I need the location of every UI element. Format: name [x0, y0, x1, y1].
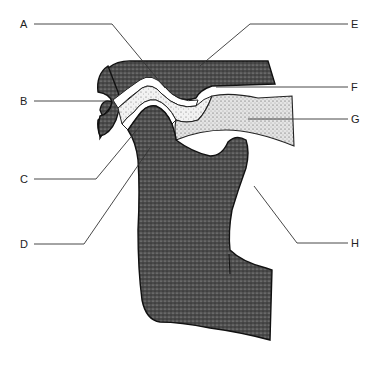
label-h: H — [351, 237, 359, 249]
leader-d — [34, 148, 150, 244]
label-g: G — [351, 113, 360, 125]
label-b: B — [20, 95, 27, 107]
label-c: C — [20, 173, 28, 185]
mandible — [128, 106, 272, 340]
label-f: F — [351, 81, 358, 93]
tmj-diagram: A B C D E F G H — [0, 0, 379, 365]
label-a: A — [20, 18, 28, 30]
leader-c — [34, 126, 140, 179]
leader-e — [200, 24, 348, 66]
label-d: D — [20, 238, 28, 250]
leader-h — [254, 186, 348, 243]
label-e: E — [351, 18, 358, 30]
